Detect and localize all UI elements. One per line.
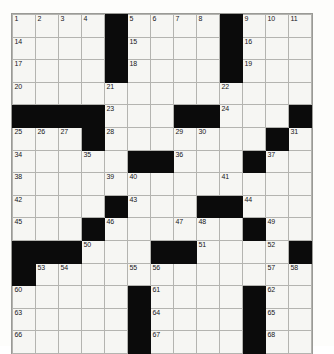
crossword-cell[interactable] (128, 218, 151, 241)
crossword-cell[interactable]: 4 (82, 15, 105, 38)
crossword-cell[interactable]: 34 (13, 150, 36, 173)
crossword-cell[interactable]: 64 (151, 308, 174, 331)
crossword-cell[interactable]: 9 (243, 15, 266, 38)
crossword-cell[interactable]: 65 (266, 308, 289, 331)
crossword-cell[interactable]: 17 (13, 60, 36, 83)
crossword-cell[interactable] (174, 173, 197, 196)
crossword-cell[interactable] (82, 286, 105, 309)
crossword-cell[interactable] (105, 150, 128, 173)
crossword-cell[interactable]: 44 (243, 195, 266, 218)
crossword-cell[interactable] (36, 195, 59, 218)
crossword-cell[interactable] (36, 37, 59, 60)
crossword-cell[interactable]: 53 (36, 263, 59, 286)
crossword-cell[interactable]: 30 (197, 127, 220, 150)
crossword-cell[interactable] (197, 173, 220, 196)
crossword-cell[interactable] (174, 195, 197, 218)
crossword-cell[interactable]: 61 (151, 286, 174, 309)
crossword-cell[interactable] (151, 105, 174, 128)
crossword-cell[interactable] (105, 331, 128, 354)
crossword-cell[interactable] (36, 82, 59, 105)
crossword-cell[interactable] (59, 60, 82, 83)
crossword-cell[interactable] (59, 37, 82, 60)
crossword-cell[interactable] (289, 218, 312, 241)
crossword-cell[interactable] (36, 173, 59, 196)
crossword-cell[interactable]: 48 (197, 218, 220, 241)
crossword-cell[interactable] (266, 60, 289, 83)
crossword-cell[interactable]: 40 (128, 173, 151, 196)
crossword-cell[interactable] (82, 263, 105, 286)
crossword-cell[interactable]: 24 (220, 105, 243, 128)
crossword-cell[interactable] (82, 173, 105, 196)
crossword-cell[interactable] (36, 308, 59, 331)
crossword-cell[interactable] (289, 82, 312, 105)
crossword-cell[interactable] (174, 308, 197, 331)
crossword-cell[interactable]: 58 (289, 263, 312, 286)
crossword-cell[interactable] (105, 240, 128, 263)
crossword-cell[interactable] (128, 105, 151, 128)
crossword-cell[interactable] (243, 173, 266, 196)
crossword-cell[interactable] (59, 308, 82, 331)
crossword-cell[interactable]: 28 (105, 127, 128, 150)
crossword-cell[interactable] (289, 60, 312, 83)
crossword-cell[interactable] (151, 218, 174, 241)
crossword-cell[interactable]: 8 (197, 15, 220, 38)
crossword-cell[interactable] (289, 37, 312, 60)
crossword-cell[interactable] (174, 60, 197, 83)
crossword-cell[interactable] (174, 286, 197, 309)
crossword-cell[interactable] (220, 286, 243, 309)
crossword-cell[interactable] (243, 240, 266, 263)
crossword-cell[interactable] (151, 82, 174, 105)
crossword-cell[interactable] (197, 286, 220, 309)
crossword-cell[interactable]: 14 (13, 37, 36, 60)
crossword-cell[interactable] (59, 82, 82, 105)
crossword-cell[interactable] (266, 37, 289, 60)
crossword-cell[interactable] (151, 37, 174, 60)
crossword-cell[interactable] (128, 82, 151, 105)
crossword-cell[interactable]: 20 (13, 82, 36, 105)
crossword-cell[interactable] (82, 331, 105, 354)
crossword-cell[interactable] (151, 127, 174, 150)
crossword-cell[interactable] (197, 82, 220, 105)
crossword-cell[interactable] (220, 263, 243, 286)
crossword-cell[interactable]: 68 (266, 331, 289, 354)
crossword-cell[interactable]: 2 (36, 15, 59, 38)
crossword-cell[interactable]: 6 (151, 15, 174, 38)
crossword-cell[interactable] (289, 286, 312, 309)
crossword-cell[interactable] (243, 82, 266, 105)
crossword-cell[interactable] (105, 308, 128, 331)
crossword-cell[interactable] (220, 150, 243, 173)
crossword-cell[interactable]: 57 (266, 263, 289, 286)
crossword-cell[interactable] (59, 331, 82, 354)
crossword-cell[interactable]: 43 (128, 195, 151, 218)
crossword-cell[interactable] (197, 331, 220, 354)
crossword-cell[interactable] (128, 127, 151, 150)
crossword-cell[interactable] (36, 218, 59, 241)
crossword-cell[interactable]: 5 (128, 15, 151, 38)
crossword-cell[interactable]: 35 (82, 150, 105, 173)
crossword-cell[interactable]: 23 (105, 105, 128, 128)
crossword-cell[interactable]: 1 (13, 15, 36, 38)
crossword-cell[interactable] (289, 173, 312, 196)
crossword-cell[interactable] (289, 150, 312, 173)
crossword-cell[interactable] (266, 195, 289, 218)
crossword-cell[interactable] (174, 331, 197, 354)
crossword-cell[interactable] (59, 150, 82, 173)
crossword-cell[interactable] (82, 82, 105, 105)
crossword-cell[interactable] (197, 150, 220, 173)
crossword-cell[interactable] (220, 218, 243, 241)
crossword-cell[interactable] (266, 105, 289, 128)
crossword-cell[interactable] (220, 331, 243, 354)
crossword-cell[interactable] (243, 263, 266, 286)
crossword-cell[interactable] (151, 60, 174, 83)
crossword-cell[interactable]: 63 (13, 308, 36, 331)
crossword-cell[interactable] (220, 308, 243, 331)
crossword-cell[interactable] (266, 82, 289, 105)
crossword-cell[interactable] (105, 263, 128, 286)
crossword-cell[interactable] (289, 308, 312, 331)
crossword-cell[interactable] (36, 60, 59, 83)
crossword-cell[interactable]: 39 (105, 173, 128, 196)
crossword-cell[interactable] (266, 173, 289, 196)
crossword-cell[interactable]: 19 (243, 60, 266, 83)
crossword-cell[interactable] (174, 37, 197, 60)
crossword-cell[interactable]: 41 (220, 173, 243, 196)
